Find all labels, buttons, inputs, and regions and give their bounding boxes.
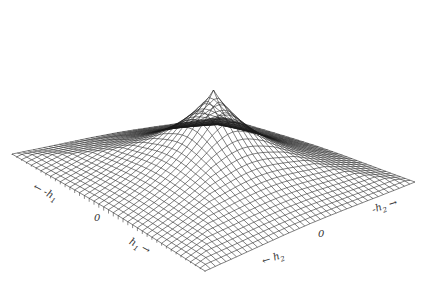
h1-zero-label: 0	[94, 212, 100, 223]
h2-zero-label: 0	[318, 228, 324, 239]
surface-plot	[0, 0, 430, 285]
surface-mesh	[12, 90, 415, 271]
